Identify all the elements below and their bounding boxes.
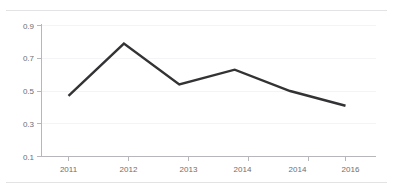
y-tick-label-0.7: 0.7 (23, 54, 35, 63)
x-tick-label-6: 2016 (342, 165, 360, 174)
x-axis: 2011 2012 2013 2014 2014 2016 (41, 157, 376, 175)
x-tick-label-2: 2012 (120, 165, 138, 174)
chart-figure: 0.9 0.7 0.5 0.3 0.1 2011 2012 2013 2014 … (0, 0, 393, 190)
y-tick-label-0.3: 0.3 (23, 120, 35, 129)
y-tick-label-0.1: 0.1 (23, 153, 35, 162)
y-tick-label-0.5: 0.5 (23, 87, 35, 96)
y-tick-label-0.9: 0.9 (23, 22, 35, 31)
data-series-line (69, 44, 346, 106)
x-tick-label-5: 2014 (289, 165, 307, 174)
y-axis: 0.9 0.7 0.5 0.3 0.1 (23, 22, 42, 162)
x-tick-label-3: 2013 (180, 165, 198, 174)
x-tick-label-4: 2014 (234, 165, 252, 174)
x-tick-label-1: 2011 (60, 165, 78, 174)
line-chart-plot: 0.9 0.7 0.5 0.3 0.1 2011 2012 2013 2014 … (0, 0, 393, 190)
